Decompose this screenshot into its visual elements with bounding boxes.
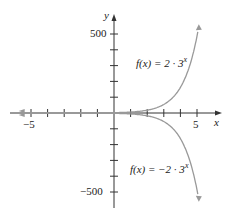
x-axis-arrow-icon xyxy=(215,111,222,116)
y-tick-label-500: 500 xyxy=(90,27,107,39)
x-tick-label-5: 5 xyxy=(193,118,199,130)
y-axis-label: y xyxy=(104,9,109,21)
x-tick-label-neg5: −5 xyxy=(23,118,35,130)
y-axis-arrow-icon xyxy=(112,14,117,21)
x-axis-label: x xyxy=(214,116,219,128)
chart-plot xyxy=(0,0,230,213)
curve-arrow-icon xyxy=(196,24,202,30)
series-curve-1 xyxy=(23,32,198,113)
y-tick-label-neg500: −500 xyxy=(80,185,103,197)
curve-arrow-icon xyxy=(196,196,202,202)
series-curve-2 xyxy=(23,113,198,194)
legend-series-2: f(x) = −2 · 3x xyxy=(130,161,188,175)
legend-series-1: f(x) = 2 · 3x xyxy=(136,55,187,69)
curve-left-arrow-icon xyxy=(19,113,25,117)
